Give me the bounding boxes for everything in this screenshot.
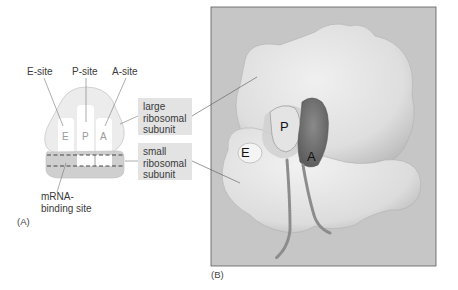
small-subunit-line3: subunit [143, 169, 188, 181]
small-subunit-label-box: small ribosomal subunit [138, 143, 192, 180]
large-subunit-line3: subunit [143, 124, 188, 136]
a-site-letter: A [100, 131, 107, 142]
mrna-label-line1: mRNA- [41, 191, 92, 203]
a-site-label: A-site [112, 66, 138, 77]
panel-a-label: (A) [17, 216, 30, 227]
large-subunit-line2: ribosomal [143, 113, 188, 125]
photo-e-site-letter: E [241, 145, 250, 160]
p-site-letter: P [82, 131, 89, 142]
large-subunit-leader [120, 116, 138, 124]
mrna-label-line2: binding site [41, 203, 92, 215]
e-site-label: E-site [27, 66, 53, 77]
photo-p-site-letter: P [280, 119, 289, 134]
photo-a-site-letter: A [307, 149, 316, 164]
large-subunit-line1: large [143, 101, 188, 113]
large-subunit-label-box: large ribosomal subunit [138, 98, 192, 135]
p-site-channel [77, 155, 94, 166]
diagram-canvas [0, 0, 458, 290]
a-site-channel [96, 155, 112, 166]
mrna-binding-site-label: mRNA- binding site [41, 191, 92, 214]
e-site-letter: E [62, 131, 69, 142]
small-subunit-line2: ribosomal [143, 158, 188, 170]
panel-b-label: (B) [211, 269, 224, 280]
small-subunit-line1: small [143, 146, 188, 158]
p-site-label: P-site [72, 66, 98, 77]
